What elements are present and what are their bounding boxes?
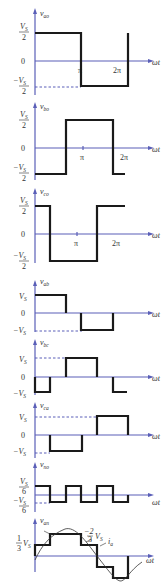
y-axis-arrow-icon <box>33 102 37 108</box>
plot-v-bc: vbc ωt VS 0 −VS <box>13 338 161 399</box>
x-label: ωt <box>152 374 161 383</box>
waveform-neg <box>50 435 82 451</box>
ytick-top-num: VS <box>20 196 28 206</box>
plot-v-ca: vca ωt VS 0 −VS <box>13 401 161 458</box>
ytick-bottom-num: −VS <box>13 251 26 261</box>
ytick-frac-num: 1 <box>17 534 21 543</box>
y-axis-arrow-icon <box>33 188 37 194</box>
waveform <box>35 486 128 502</box>
ytick-zero: 0 <box>21 309 25 318</box>
y-label: vbc <box>40 338 49 348</box>
ytick-bottom-den: 2 <box>22 87 26 96</box>
plot-v-no: vno ωt VS 6 −VS 6 <box>13 460 161 515</box>
ytick-top-num: VS <box>20 477 28 487</box>
x-label: ωt <box>152 498 161 507</box>
ytick-bottom-den: 2 <box>22 262 26 271</box>
waveform-neg <box>81 313 113 330</box>
annotation-two-thirds-den: 3 <box>88 535 92 544</box>
ytick-bottom: −VS <box>13 389 26 399</box>
ytick-frac-den: 3 <box>17 544 21 553</box>
x-label: ωt <box>146 556 155 565</box>
ytick-top: VS <box>19 413 27 423</box>
annotation-two-thirds-vs: VS <box>95 532 103 542</box>
y-label: vca <box>40 401 49 411</box>
ytick-top-den: 6 <box>22 487 26 496</box>
xtick-2pi: 2π <box>120 153 128 162</box>
xtick-pi: π <box>80 153 84 162</box>
ytick-bottom-num: −VS <box>13 163 26 173</box>
y-axis-arrow-icon <box>33 518 37 524</box>
ytick-top-den: 2 <box>22 121 26 130</box>
y-label: vbo <box>40 102 49 112</box>
xtick-2pi: 2π <box>113 66 121 75</box>
waveform-pos <box>35 295 66 313</box>
inverter-waveform-diagram: vao ωt VS 2 0 −VS 2 π 2π vbo ωt VS 2 0 −… <box>0 0 167 584</box>
plot-v-ab: vab ωt VS 0 −VS <box>13 277 161 336</box>
waveform <box>35 33 128 86</box>
x-label: ωt <box>152 58 161 67</box>
waveform-pos <box>66 358 97 377</box>
waveform-neg2 <box>113 377 127 392</box>
y-axis-arrow-icon <box>33 339 37 345</box>
ytick-zero: 0 <box>21 144 25 153</box>
ytick-zero: 0 <box>21 431 25 440</box>
ytick-top-den: 2 <box>22 33 26 42</box>
ytick-zero: 0 <box>21 373 25 382</box>
waveform-neg1 <box>35 377 50 392</box>
ytick-zero: 0 <box>21 57 25 66</box>
ytick-top: VS <box>19 355 27 365</box>
plot-v-co: vco ωt VS 2 0 −VS 2 π 2π <box>13 187 161 271</box>
ytick-top-num: VS <box>20 110 28 120</box>
ytick-top: VS <box>19 292 27 302</box>
ytick-bottom: −VS <box>13 447 26 457</box>
y-axis-arrow-icon <box>33 8 37 14</box>
plot-v-bo: vbo ωt VS 2 0 −VS 2 π 2π <box>13 102 161 183</box>
xtick-2pi: 2π <box>112 239 120 248</box>
ytick-bottom-den: 6 <box>22 506 26 515</box>
x-label: ωt <box>152 231 161 240</box>
xtick-pi: π <box>74 239 78 248</box>
waveform <box>35 120 125 174</box>
y-label: van <box>40 516 49 526</box>
y-label: vno <box>40 460 49 470</box>
annotation-ia: ia <box>108 537 113 547</box>
y-label: vao <box>40 9 49 19</box>
y-label: vab <box>40 277 49 287</box>
ytick-bottom-den: 2 <box>22 174 26 183</box>
plot-v-an: van ωt 1 3 VS −2 3 VS ia <box>16 516 155 581</box>
ytick-bottom-num: −VS <box>13 76 26 86</box>
waveform-pos <box>97 416 128 435</box>
plot-v-ao: vao ωt VS 2 0 −VS 2 π 2π <box>13 8 161 96</box>
y-axis-arrow-icon <box>33 280 37 286</box>
ytick-bottom: −VS <box>13 326 26 336</box>
ytick-top-num: VS <box>20 22 28 32</box>
ytick-top-den: 2 <box>22 207 26 216</box>
ytick-bottom-num: −VS <box>13 496 26 506</box>
ytick-zero: 0 <box>21 230 25 239</box>
y-label: vco <box>40 187 49 197</box>
y-axis-arrow-icon <box>33 462 37 468</box>
x-label: ωt <box>152 310 161 319</box>
y-axis-arrow-icon <box>33 402 37 408</box>
x-label: ωt <box>152 432 161 441</box>
x-label: ωt <box>152 145 161 154</box>
x-axis-arrow-icon <box>148 493 154 497</box>
ytick-vs: VS <box>23 539 31 549</box>
